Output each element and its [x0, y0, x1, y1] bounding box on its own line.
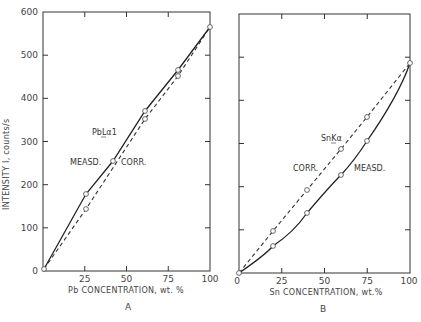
svg-text:500: 500	[21, 50, 38, 60]
svg-text:0: 0	[234, 276, 240, 286]
x-axis-title-b: Sn CONCENTRATION, wt.%	[269, 288, 382, 297]
svg-text:75: 75	[163, 274, 174, 284]
svg-text:100: 100	[21, 223, 38, 233]
panel-b: 0 25 50 75 100 Sn CONCENTRATION, wt.% B …	[234, 14, 418, 314]
data-markers-a	[42, 25, 213, 272]
legend-measured-b: MEASD.	[354, 164, 385, 173]
panel-a: 0 100 200 300 400 500 600 25 50 75 100 P…	[21, 7, 219, 312]
x-tick-labels-a: 25 50 75 100	[79, 274, 219, 284]
svg-text:50: 50	[319, 276, 331, 286]
ticks-b	[239, 14, 410, 273]
svg-text:100: 100	[201, 274, 218, 284]
svg-text:50: 50	[121, 274, 133, 284]
svg-text:25: 25	[79, 274, 90, 284]
legend-measured-a: MEASD.	[70, 158, 101, 167]
svg-text:400: 400	[21, 93, 38, 103]
svg-text:300: 300	[21, 137, 38, 147]
legend-corrected-a: CORR.	[121, 158, 146, 167]
plot-frame-a	[43, 12, 210, 271]
x-tick-labels-b: 0 25 50 75 100	[234, 276, 418, 286]
svg-text:75: 75	[362, 276, 373, 286]
svg-text:200: 200	[21, 180, 38, 190]
y-ticks-a	[43, 12, 210, 271]
corrected-line-a	[44, 27, 210, 269]
svg-text:25: 25	[276, 276, 287, 286]
panel-letter-b: B	[320, 304, 326, 314]
svg-text:600: 600	[21, 7, 38, 17]
line-label-a: PbLα1	[92, 128, 117, 137]
plot-frame-b	[239, 14, 410, 273]
y-tick-labels-a: 0 100 200 300 400 500 600	[21, 7, 38, 276]
figure: INTENSITY I, counts/s 0	[0, 0, 421, 322]
line-label-b: SnKα	[321, 134, 342, 143]
y-axis-title: INTENSITY I, counts/s	[2, 119, 11, 210]
legend-corrected-b: CORR.	[293, 164, 318, 173]
x-axis-title-a: Pb CONCENTRATION, wt. %	[68, 286, 184, 295]
svg-text:100: 100	[400, 276, 417, 286]
panel-letter-a: A	[125, 302, 132, 312]
svg-text:0: 0	[32, 266, 38, 276]
